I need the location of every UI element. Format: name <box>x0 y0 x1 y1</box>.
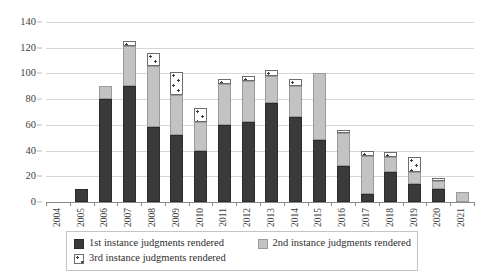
bar-segment-series-2 <box>194 122 207 150</box>
dark-square-swatch <box>74 239 84 249</box>
x-axis-tick-label: 2006 <box>101 208 111 227</box>
bar-column <box>51 22 64 202</box>
bar-segment-series-2 <box>432 181 445 189</box>
bar-segment-series-1 <box>384 172 397 202</box>
bar-segment-series-3 <box>194 108 207 122</box>
bar-stack <box>194 108 207 202</box>
bar-stack <box>242 76 255 202</box>
y-axis-tick-label: 60 <box>26 120 37 131</box>
bar-segment-series-2 <box>170 95 183 135</box>
bar-stack <box>361 151 374 202</box>
bar-stack <box>99 86 112 202</box>
legend-label-1st-instance: 1st instance judgments rendered <box>89 238 224 249</box>
legend-item-3rd-instance: 3rd instance judgments rendered <box>74 253 282 264</box>
bar-segment-series-2 <box>218 84 231 125</box>
legend-row-1: 1st instance judgments rendered 2nd inst… <box>74 236 411 251</box>
x-axis: 2004200520062007200820092010201120122013… <box>46 202 474 230</box>
stacked-bar-chart: 020406080100120140 200420052006200720082… <box>0 0 484 276</box>
x-axis-tick-mark <box>141 202 142 206</box>
bar-segment-series-1 <box>337 166 350 202</box>
x-axis-tick-mark <box>403 202 404 206</box>
x-axis-tick-mark <box>331 202 332 206</box>
bar-segment-series-2 <box>242 81 255 122</box>
bar-stack <box>384 152 397 202</box>
bar-column <box>242 22 255 202</box>
x-axis-tick-label: 2017 <box>362 208 372 227</box>
bar-column <box>99 22 112 202</box>
bar-segment-series-2 <box>408 172 421 184</box>
y-axis-tick-mark <box>37 73 42 74</box>
bar-stack <box>170 72 183 202</box>
bar-segment-series-2 <box>313 73 326 140</box>
bar-stack <box>337 130 350 202</box>
bar-segment-series-1 <box>432 189 445 202</box>
legend-item-2nd-instance: 2nd instance judgments rendered <box>258 238 412 249</box>
x-axis-tick-label: 2008 <box>148 208 158 227</box>
bar-column <box>75 22 88 202</box>
bar-segment-series-1 <box>170 135 183 202</box>
x-axis-tick-mark <box>260 202 261 206</box>
bar-stack <box>265 70 278 202</box>
y-axis-tick-label: 120 <box>20 42 36 53</box>
bar-segment-series-1 <box>361 194 374 202</box>
x-axis-tick-mark <box>70 202 71 206</box>
dotted-square-swatch <box>74 254 84 264</box>
x-axis-tick-label: 2007 <box>124 208 134 227</box>
x-axis-tick-mark <box>379 202 380 206</box>
x-axis-tick-label: 2015 <box>315 208 325 227</box>
bar-stack <box>408 157 421 202</box>
y-axis-tick-mark <box>37 47 42 48</box>
bar-segment-series-1 <box>194 151 207 202</box>
x-axis-tick-label: 2012 <box>243 208 253 227</box>
bar-stack <box>289 79 302 202</box>
x-axis-tick-mark <box>117 202 118 206</box>
bar-stack <box>432 178 445 202</box>
bar-segment-series-1 <box>408 184 421 202</box>
bar-column <box>456 22 469 202</box>
bar-stack <box>147 53 160 202</box>
bar-series-container <box>46 22 474 202</box>
y-axis-tick-mark <box>37 176 42 177</box>
x-axis-tick-mark <box>450 202 451 206</box>
x-axis-tick-label: 2011 <box>220 208 230 227</box>
bar-column <box>170 22 183 202</box>
bar-segment-series-2 <box>361 156 374 195</box>
legend-label-2nd-instance: 2nd instance judgments rendered <box>273 238 412 249</box>
bar-segment-series-3 <box>170 72 183 95</box>
y-axis-tick-mark <box>37 150 42 151</box>
legend-label-3rd-instance: 3rd instance judgments rendered <box>89 253 226 264</box>
bar-segment-series-1 <box>313 140 326 202</box>
x-axis-tick-label: 2010 <box>196 208 206 227</box>
bar-stack <box>313 73 326 202</box>
y-axis-tick-mark <box>37 22 42 23</box>
y-axis: 020406080100120140 <box>0 22 42 202</box>
bar-segment-series-2 <box>265 76 278 103</box>
chart-legend: 1st instance judgments rendered 2nd inst… <box>66 231 418 271</box>
bar-column <box>432 22 445 202</box>
bar-column <box>123 22 136 202</box>
bar-segment-series-3 <box>147 53 160 66</box>
y-axis-tick-label: 20 <box>26 171 37 182</box>
bar-column <box>147 22 160 202</box>
y-axis-tick-mark <box>37 99 42 100</box>
bar-segment-series-1 <box>75 189 88 202</box>
y-axis-tick-label: 40 <box>26 145 37 156</box>
x-axis-tick-mark <box>46 202 47 206</box>
y-axis-tick-label: 100 <box>20 68 36 79</box>
bar-segment-series-2 <box>123 46 136 86</box>
x-axis-tick-mark <box>355 202 356 206</box>
bar-segment-series-1 <box>147 127 160 202</box>
bar-segment-series-3 <box>289 79 302 87</box>
bar-column <box>313 22 326 202</box>
bar-segment-series-1 <box>289 117 302 202</box>
bar-column <box>265 22 278 202</box>
x-axis-tick-label: 2013 <box>267 208 277 227</box>
bar-column <box>337 22 350 202</box>
bar-stack <box>456 192 469 202</box>
x-axis-tick-mark <box>212 202 213 206</box>
y-axis-tick-label: 80 <box>26 94 37 105</box>
x-axis-tick-label: 2009 <box>172 208 182 227</box>
bar-segment-series-2 <box>289 86 302 117</box>
bar-stack <box>123 41 136 202</box>
bar-segment-series-3 <box>408 157 421 172</box>
